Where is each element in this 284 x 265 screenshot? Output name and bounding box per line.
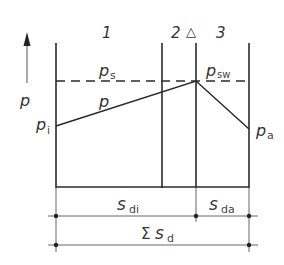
svg-text:d: d (167, 232, 174, 245)
svg-text:s: s (110, 69, 116, 82)
label-p-sw: p sw (205, 61, 230, 80)
dim-dot (194, 214, 198, 218)
svg-text:sw: sw (217, 69, 230, 80)
label-s-di: s di (117, 194, 139, 216)
dimension-dots (54, 214, 251, 247)
svg-text:i: i (47, 124, 50, 137)
svg-text:a: a (267, 129, 274, 142)
wall-structure (56, 43, 249, 188)
svg-text:Σ: Σ (141, 225, 150, 243)
label-p-a: p a (255, 121, 274, 142)
svg-text:da: da (221, 203, 235, 216)
svg-text:p: p (255, 121, 266, 140)
dim-dot (54, 214, 58, 218)
svg-text:di: di (129, 203, 139, 216)
axis-label: p (19, 91, 30, 110)
svg-text:p: p (35, 115, 46, 134)
arrow-up-icon (24, 32, 31, 46)
label-sum-s-d: Σ s d (141, 223, 174, 245)
dimension-lines (48, 187, 258, 252)
dim-dot (247, 243, 251, 247)
barrier-triangle-icon: △ (186, 24, 196, 39)
layer-label-1: 1 (102, 24, 112, 42)
layer-label-3: 3 (216, 24, 226, 42)
pressure-axis: p (19, 32, 31, 110)
svg-text:p: p (98, 61, 109, 80)
dim-dot (54, 243, 58, 247)
svg-text:s: s (155, 223, 164, 243)
dim-dot (247, 214, 251, 218)
label-p-i: p i (35, 115, 50, 137)
svg-text:s: s (117, 194, 126, 214)
label-s-da: s da (209, 194, 235, 216)
svg-text:s: s (209, 194, 218, 214)
svg-text:p: p (205, 61, 216, 80)
svg-text:p: p (98, 92, 109, 111)
pressure-diagram: p 1 2 △ 3 p s p p sw p i p a (0, 0, 284, 265)
layer-label-2: 2 (171, 24, 181, 42)
label-p: p (98, 92, 109, 111)
vapor-pressure-profile (56, 81, 249, 129)
label-p-s: p s (98, 61, 116, 82)
